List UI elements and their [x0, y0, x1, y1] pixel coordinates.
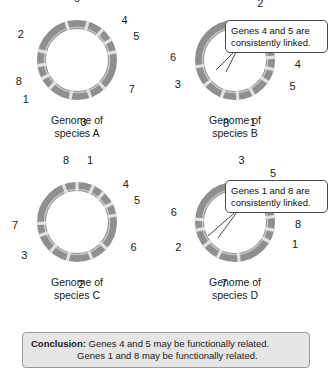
gene-label-5: 5 — [289, 80, 295, 91]
genome-caption-d: Genome of species D — [160, 276, 310, 301]
gene-label-3: 3 — [175, 79, 181, 90]
genome-panel-c: Genome of species C 14562378 — [2, 166, 152, 326]
gene-boundary — [107, 52, 117, 54]
genome-circle-a — [29, 12, 125, 108]
gene-boundary — [37, 64, 47, 65]
genome-caption-c: Genome of species C — [2, 276, 152, 301]
gene-label-1: 1 — [292, 238, 298, 249]
genome-inner-line — [44, 189, 109, 254]
genome-panel-a: Genome of species A 64573182 — [2, 4, 152, 164]
gene-label-3: 3 — [238, 155, 244, 166]
gene-boundary — [107, 215, 117, 217]
gene-boundary — [265, 216, 275, 217]
gene-label-5: 5 — [270, 168, 276, 179]
callout-genes-4-5: Genes 4 and 5 are consistently linked. — [225, 20, 328, 53]
gene-label-8: 8 — [16, 76, 22, 87]
genome-ring-a — [29, 12, 125, 108]
gene-boundary — [238, 252, 239, 262]
conclusion-box: Conclusion: Genes 4 and 5 may be functio… — [22, 332, 310, 368]
genome-circle-c — [29, 174, 125, 270]
gene-label-2: 2 — [175, 242, 181, 253]
gene-label-2: 2 — [18, 28, 24, 39]
conclusion-line-2: Genes 1 and 8 may be functionally relate… — [31, 350, 301, 362]
gene-label-6: 6 — [74, 0, 80, 4]
gene-label-4: 4 — [121, 15, 127, 26]
gene-boundary — [70, 90, 72, 100]
conclusion-line-1: Genes 4 and 5 may be functionally relate… — [86, 338, 269, 349]
callout-genes-1-8: Genes 1 and 8 are consistently linked. — [225, 180, 328, 213]
gene-label-8: 8 — [295, 219, 301, 230]
gene-boundary — [265, 228, 275, 230]
gene-label-6: 6 — [131, 242, 137, 253]
figure-canvas: Genome of species A 64573182 Genome of s… — [0, 0, 330, 376]
gene-label-2: 2 — [257, 0, 263, 9]
conclusion-lead: Conclusion: — [31, 338, 86, 349]
gene-label-4: 4 — [295, 59, 301, 70]
gene-label-6: 6 — [171, 207, 177, 218]
gene-label-5: 5 — [133, 31, 139, 42]
gene-label-5: 5 — [134, 195, 140, 206]
genome-ring-c — [29, 174, 125, 270]
gene-label-1: 1 — [23, 93, 29, 104]
gene-label-1: 1 — [250, 116, 256, 127]
gene-label-8: 8 — [63, 154, 69, 165]
genome-caption-b: Genome of species B — [160, 114, 310, 139]
gene-label-3: 3 — [80, 116, 86, 127]
gene-label-3: 3 — [21, 249, 27, 260]
genome-caption-a: Genome of species A — [2, 114, 152, 139]
gene-label-1: 1 — [87, 155, 93, 166]
gene-boundary — [265, 57, 275, 58]
gene-boundary — [237, 90, 238, 100]
gene-label-8: 8 — [223, 118, 229, 129]
genome-band — [42, 187, 113, 258]
gene-label-6: 6 — [170, 51, 176, 62]
gene-label-7: 7 — [12, 220, 18, 231]
gene-label-7: 7 — [129, 84, 135, 95]
gene-label-2: 2 — [78, 278, 84, 289]
gene-label-7: 7 — [221, 278, 227, 289]
gene-label-4: 4 — [123, 178, 129, 189]
